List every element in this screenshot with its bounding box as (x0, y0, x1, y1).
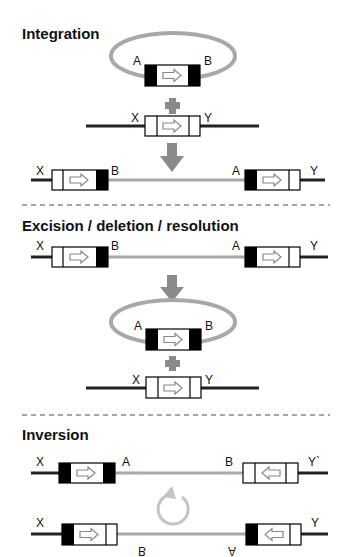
section-title-inversion: Inversion (22, 426, 89, 443)
section-title-excision: Excision / deletion / resolution (22, 217, 239, 234)
integrated-substrate (31, 247, 328, 267)
label-A: A (122, 455, 130, 469)
plasmid-circle (111, 300, 235, 350)
label-A: A (134, 319, 142, 333)
chromosome-site (86, 116, 259, 136)
label-A-inverted: A (228, 544, 236, 557)
label-Y: Y (204, 111, 212, 125)
down-arrow-icon (160, 275, 184, 302)
label-X: X (132, 373, 140, 387)
plus-icon (165, 98, 180, 114)
chromosome-site (86, 377, 259, 398)
integrated-product (31, 170, 325, 190)
label-Y: Y (205, 373, 213, 387)
down-arrow-icon (160, 143, 184, 172)
label-Y: Y (310, 164, 318, 178)
label-Y: Y (311, 516, 319, 530)
section-title-integration: Integration (22, 25, 100, 42)
label-X: X (131, 111, 139, 125)
label-B-inverted: B (138, 544, 146, 557)
label-Y: Y (310, 239, 318, 253)
label-B: B (204, 54, 212, 68)
label-Yprime: Y` (308, 455, 320, 469)
label-B: B (111, 164, 119, 178)
label-B: B (225, 455, 233, 469)
label-X: X (36, 455, 44, 469)
label-X: X (36, 239, 44, 253)
inversion-substrate (31, 463, 328, 483)
label-A: A (133, 54, 141, 68)
label-X: X (36, 516, 44, 530)
rotate-arrow-icon (158, 486, 188, 524)
inversion-product (31, 524, 328, 545)
label-B: B (205, 319, 213, 333)
plasmid-circle (111, 33, 235, 86)
label-A: A (232, 164, 240, 178)
label-A: A (232, 239, 240, 253)
label-B: B (111, 239, 119, 253)
plus-icon (165, 356, 180, 371)
label-X: X (36, 164, 44, 178)
